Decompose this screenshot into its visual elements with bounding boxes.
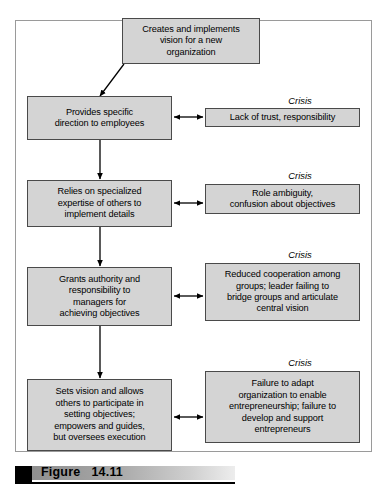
crisis-label-direction: Crisis <box>270 95 330 106</box>
caption-text: Figure 14.11 <box>41 465 123 479</box>
crisis-label-coordination: Crisis <box>270 249 330 260</box>
stage-box-direction: Provides specific direction to employees <box>27 96 172 140</box>
stage-box-creativity-text: Creates and implements vision for a new … <box>126 24 256 58</box>
stage-box-coordination-text: Grants authority and responsibility to m… <box>31 274 168 320</box>
stage-box-collaboration-text: Sets vision and allows others to partici… <box>31 386 168 443</box>
crisis-box-direction-text: Lack of trust, responsibility <box>209 112 356 123</box>
stage-box-coordination: Grants authority and responsibility to m… <box>27 267 172 326</box>
stage-box-collaboration: Sets vision and allows others to partici… <box>27 379 172 451</box>
crisis-label-collaboration: Crisis <box>270 357 330 368</box>
stage-box-creativity: Creates and implements vision for a new … <box>122 18 260 64</box>
figure-caption: Figure 14.11 <box>15 466 235 484</box>
crisis-box-collaboration-text: Failure to adapt organization to enable … <box>209 378 356 435</box>
crisis-label-delegation: Crisis <box>270 170 330 181</box>
stage-box-direction-text: Provides specific direction to employees <box>31 107 168 130</box>
crisis-box-delegation: Role ambiguity, confusion about objectiv… <box>205 184 360 214</box>
caption-bullet-icon <box>15 466 32 482</box>
crisis-box-collaboration: Failure to adapt organization to enable … <box>205 371 360 443</box>
crisis-box-delegation-text: Role ambiguity, confusion about objectiv… <box>209 188 356 211</box>
crisis-box-coordination-text: Reduced cooperation among groups; leader… <box>209 269 356 315</box>
caption-underline <box>15 482 235 484</box>
stage-box-delegation: Relies on specialized expertise of other… <box>27 180 172 227</box>
crisis-box-direction: Lack of trust, responsibility <box>205 108 360 127</box>
stage-box-delegation-text: Relies on specialized expertise of other… <box>31 186 168 220</box>
figure-container: Creates and implements vision for a new … <box>0 0 388 496</box>
crisis-box-coordination: Reduced cooperation among groups; leader… <box>205 263 360 321</box>
